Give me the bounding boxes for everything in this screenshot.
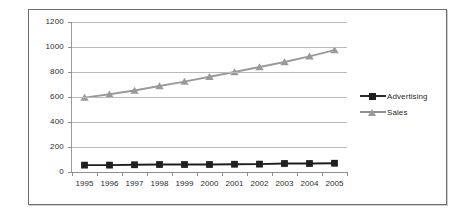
data-point [156,161,163,168]
data-point [106,162,113,169]
triangle-marker-icon [360,106,386,118]
plot-area: 0200400600800100012001995199619971998199… [71,22,346,172]
x-axis-tick [197,172,198,176]
data-point [206,161,213,168]
x-axis-tick [322,172,323,176]
chart-figure: 0200400600800100012001995199619971998199… [0,0,474,215]
data-point [181,161,188,168]
data-point [281,160,288,167]
chart-legend: Advertising Sales [360,88,444,120]
x-axis-tick [297,172,298,176]
y-axis-label: 400 [24,117,64,126]
legend-label-advertising: Advertising [386,92,428,101]
x-axis-tick [122,172,123,176]
gridline [72,122,347,123]
data-point [81,162,88,169]
gridline [72,22,347,23]
x-axis-tick [272,172,273,176]
legend-label-sales: Sales [386,108,408,117]
y-axis-label: 1200 [24,17,64,26]
y-axis-label: 1000 [24,42,64,51]
y-axis-tick [68,122,72,123]
y-axis-tick [68,72,72,73]
x-axis-tick [97,172,98,176]
data-point [131,161,138,168]
gridline [72,72,347,73]
x-axis-tick [347,172,348,176]
legend-item-advertising[interactable]: Advertising [360,88,444,104]
y-axis-label: 600 [24,92,64,101]
x-axis-label: 2005 [318,179,352,188]
series-advertising [81,160,338,169]
data-point [306,160,313,167]
data-point [256,161,263,168]
y-axis-label: 0 [24,167,64,176]
series-sales [80,46,338,100]
legend-item-sales[interactable]: Sales [360,104,444,120]
y-axis-tick [68,97,72,98]
x-axis-tick [222,172,223,176]
data-point [231,161,238,168]
y-axis-label: 800 [24,67,64,76]
x-axis-tick [247,172,248,176]
gridline [72,172,347,173]
gridline [72,47,347,48]
x-axis-tick [72,172,73,176]
y-axis-tick [68,147,72,148]
x-axis-tick [147,172,148,176]
square-marker-icon [360,90,386,102]
data-point [331,160,338,167]
gridline [72,97,347,98]
y-axis-label: 200 [24,142,64,151]
gridline [72,147,347,148]
y-axis-tick [68,22,72,23]
x-axis-tick [172,172,173,176]
y-axis-tick [68,47,72,48]
